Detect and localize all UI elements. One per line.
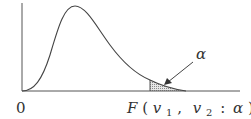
critical-value-label: F ( v 1 , v 2 : α ) xyxy=(126,99,251,119)
origin-label: 0 xyxy=(16,99,26,117)
density-curve xyxy=(22,6,186,91)
alpha-annotation: α xyxy=(196,45,206,63)
alpha-arrow xyxy=(168,62,193,82)
arrowhead-icon xyxy=(164,78,172,85)
f-distribution-chart: α 0 F ( v 1 , v 2 : α ) xyxy=(0,0,251,119)
